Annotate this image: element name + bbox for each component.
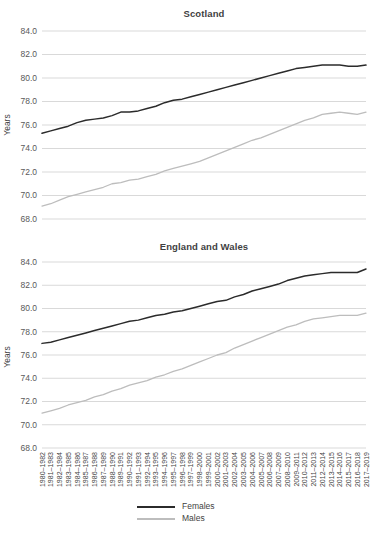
x-tick-label: 1985–1987 xyxy=(82,452,89,487)
y-tick-label: 84.0 xyxy=(20,257,37,267)
y-tick-label: 70.0 xyxy=(20,420,37,430)
x-tick-label: 2009–2011 xyxy=(293,452,300,487)
y-tick-label: 76.0 xyxy=(20,350,37,360)
y-tick-label: 82.0 xyxy=(20,49,37,59)
x-tick-label: 1993–1995 xyxy=(152,452,159,487)
x-tick-label: 2015–2017 xyxy=(345,452,352,487)
x-tick-label: 1991–1993 xyxy=(135,452,142,487)
y-tick-label: 76.0 xyxy=(20,120,37,130)
x-tick-label: 2010–2012 xyxy=(301,452,308,487)
x-tick-label: 1989–1991 xyxy=(117,452,124,487)
legend-label-females: Females xyxy=(182,501,215,512)
x-tick-label: 2007–2009 xyxy=(275,452,282,487)
males-series-line xyxy=(42,112,366,206)
x-tick-label: 1994–1996 xyxy=(161,452,168,487)
legend: Females Males xyxy=(0,501,370,524)
x-tick-label: 1992–1994 xyxy=(144,452,151,487)
y-tick-label: 74.0 xyxy=(20,373,37,383)
legend-item-females: Females xyxy=(137,501,233,512)
x-tick-label: 1980–1982 xyxy=(39,452,46,487)
x-tick-label: 2017–2019 xyxy=(363,452,370,487)
plot-area-england-wales: 84.082.080.078.076.074.072.070.068.01980… xyxy=(0,256,370,501)
x-tick-label: 2001–2003 xyxy=(222,452,229,487)
x-tick-label: 1986–1988 xyxy=(91,452,98,487)
y-tick-label: 80.0 xyxy=(20,73,37,83)
chart-title-scotland: Scotland xyxy=(42,8,366,19)
plot-area-scotland: 84.082.080.078.076.074.072.070.068.0 xyxy=(0,24,370,226)
x-tick-label: 1996–1998 xyxy=(179,452,186,487)
y-tick-label: 72.0 xyxy=(20,167,37,177)
x-tick-label: 1990–1992 xyxy=(126,452,133,487)
x-tick-label: 1998–2000 xyxy=(196,452,203,487)
x-tick-label: 2005–2007 xyxy=(258,452,265,487)
x-tick-label: 2003–2005 xyxy=(240,452,247,487)
y-tick-label: 70.0 xyxy=(20,190,37,200)
y-tick-label: 84.0 xyxy=(20,26,37,36)
x-tick-label: 1988–1990 xyxy=(109,452,116,487)
y-tick-label: 74.0 xyxy=(20,143,37,153)
x-tick-label: 1995–1997 xyxy=(170,452,177,487)
legend-item-males: Males xyxy=(137,513,233,524)
x-tick-label: 2016–2018 xyxy=(354,452,361,487)
y-tick-label: 78.0 xyxy=(20,327,37,337)
x-tick-label: 1999–2001 xyxy=(205,452,212,487)
y-tick-label: 72.0 xyxy=(20,396,37,406)
x-tick-label: 2012–2014 xyxy=(319,452,326,487)
males-line-swatch xyxy=(137,518,175,520)
x-tick-label: 2000–2002 xyxy=(214,452,221,487)
females-series-line xyxy=(42,65,366,133)
x-tick-label: 1981–1983 xyxy=(47,452,54,487)
x-tick-label: 2013–2015 xyxy=(328,452,335,487)
x-tick-label: 1984–1986 xyxy=(74,452,81,487)
x-tick-label: 2011–2013 xyxy=(310,452,317,487)
x-tick-label: 2008–2010 xyxy=(284,452,291,487)
y-tick-label: 68.0 xyxy=(20,443,37,453)
x-tick-label: 2002–2004 xyxy=(231,452,238,487)
x-tick-label: 1997–1999 xyxy=(187,452,194,487)
males-series-line xyxy=(42,313,366,413)
x-tick-label: 2004–2006 xyxy=(249,452,256,487)
chart-title-england-wales: England and Wales xyxy=(42,241,366,252)
females-line-swatch xyxy=(137,506,175,508)
x-tick-label: 2006–2008 xyxy=(266,452,273,487)
x-tick-label: 1983–1985 xyxy=(65,452,72,487)
x-tick-label: 2014–2016 xyxy=(336,452,343,487)
legend-label-males: Males xyxy=(182,513,205,524)
y-tick-label: 82.0 xyxy=(20,280,37,290)
x-tick-label: 1987–1989 xyxy=(100,452,107,487)
y-tick-label: 80.0 xyxy=(20,303,37,313)
y-tick-label: 68.0 xyxy=(20,214,37,224)
y-tick-label: 78.0 xyxy=(20,96,37,106)
life-expectancy-figure: Scotland Years 84.082.080.078.076.074.07… xyxy=(0,0,370,538)
x-tick-label: 1982–1984 xyxy=(56,452,63,487)
